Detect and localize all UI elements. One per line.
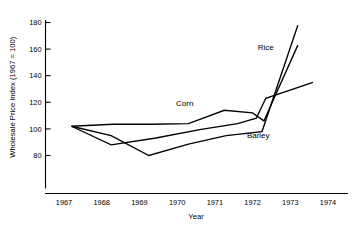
y-axis-title: Wholesale Price Index (1967 = 100) xyxy=(8,36,17,157)
series-line-corn xyxy=(72,45,298,126)
y-tick-label: 180 xyxy=(29,18,41,27)
line-chart: 8010012014016018019671968196919701971197… xyxy=(0,0,352,235)
x-tick-label: 1967 xyxy=(56,198,72,207)
axes-layer: 8010012014016018019671968196919701971197… xyxy=(29,18,348,207)
x-tick-label: 1974 xyxy=(320,198,336,207)
x-tick-label: 1972 xyxy=(244,198,260,207)
x-tick-label: 1970 xyxy=(169,198,185,207)
y-tick-label: 140 xyxy=(29,71,41,80)
y-tick-label: 120 xyxy=(29,98,41,107)
y-tick-label: 80 xyxy=(33,151,41,160)
chart-figure: 8010012014016018019671968196919701971197… xyxy=(0,0,352,235)
x-tick-label: 1973 xyxy=(282,198,298,207)
data-lines-layer xyxy=(72,25,313,155)
series-label-corn: Corn xyxy=(176,99,193,108)
x-tick-label: 1969 xyxy=(131,198,147,207)
series-label-rice: Rice xyxy=(258,43,275,52)
x-axis-title: Year xyxy=(188,212,204,221)
x-tick-label: 1968 xyxy=(93,198,109,207)
series-label-barley: Barley xyxy=(247,131,270,140)
y-tick-label: 100 xyxy=(29,125,41,134)
y-tick-label: 160 xyxy=(29,45,41,54)
x-tick-label: 1971 xyxy=(207,198,223,207)
